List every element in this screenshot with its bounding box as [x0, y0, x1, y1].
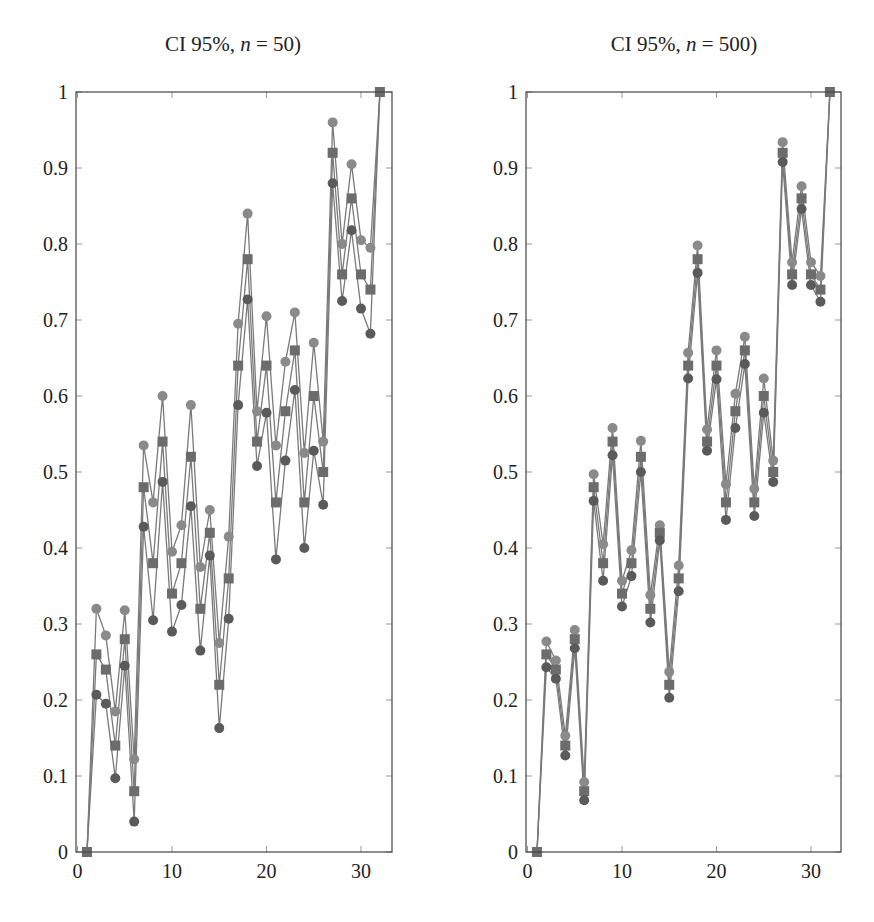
y-tick-label: 1: [508, 81, 518, 103]
lower-ci-marker: [617, 602, 627, 612]
y-tick-label: 0.6: [493, 385, 518, 407]
upper-ci-marker: [560, 731, 570, 741]
upper-ci-marker: [579, 777, 589, 787]
mean-marker: [589, 482, 599, 492]
lower-ci-marker: [589, 496, 599, 506]
mean-marker: [749, 497, 759, 507]
upper-ci-marker: [617, 576, 627, 586]
lower-ci-marker: [702, 446, 712, 456]
mean-marker: [541, 649, 551, 659]
upper-ci-marker: [702, 424, 712, 434]
mean-marker: [617, 589, 627, 599]
lower-ci-marker: [806, 280, 816, 290]
upper-ci-marker: [806, 257, 816, 267]
upper-ci-marker: [730, 389, 740, 399]
mean-marker: [560, 741, 570, 751]
x-tick-label: 30: [801, 860, 821, 882]
y-tick-label: 0.1: [493, 765, 518, 787]
lower-ci-marker: [541, 662, 551, 672]
lower-ci-marker: [740, 359, 750, 369]
mean-marker: [806, 269, 816, 279]
lower-ci-marker: [551, 674, 561, 684]
upper-ci-marker: [551, 655, 561, 665]
lower-ci-marker: [693, 268, 703, 278]
mean-marker: [636, 452, 646, 462]
mean-marker: [759, 391, 769, 401]
upper-ci-marker: [645, 590, 655, 600]
upper-ci-marker: [636, 436, 646, 446]
y-tick-label: 0.7: [493, 309, 518, 331]
lower-ci-marker: [721, 515, 731, 525]
plot-area-right: 00.10.20.30.40.50.60.70.80.910102030: [0, 0, 874, 922]
y-tick-label: 0.8: [493, 233, 518, 255]
mean-marker: [598, 558, 608, 568]
lower-ci-marker: [797, 204, 807, 214]
mean-marker: [730, 406, 740, 416]
mean-marker: [712, 361, 722, 371]
lower-ci-marker: [778, 157, 788, 167]
y-tick-label: 0.3: [493, 613, 518, 635]
mean-marker: [645, 604, 655, 614]
upper-ci-marker: [797, 181, 807, 191]
upper-ci-marker: [721, 479, 731, 489]
x-tick-label: 0: [523, 860, 533, 882]
mean-marker: [740, 345, 750, 355]
upper-ci-marker: [683, 348, 693, 358]
x-tick-label: 20: [707, 860, 727, 882]
mean-marker: [778, 148, 788, 158]
lower-ci-marker: [570, 643, 580, 653]
x-tick-label: 10: [612, 860, 632, 882]
lower-ci-marker: [759, 408, 769, 418]
mean-marker: [626, 558, 636, 568]
lower-ci-marker: [626, 571, 636, 581]
upper-ci-marker: [541, 636, 551, 646]
mean-marker: [721, 497, 731, 507]
upper-ci-marker: [589, 469, 599, 479]
upper-ci-marker: [626, 545, 636, 555]
lower-ci-marker: [608, 450, 618, 460]
mean-marker: [608, 437, 618, 447]
lower-ci-marker: [815, 297, 825, 307]
lower-ci-marker: [787, 280, 797, 290]
y-tick-label: 0.9: [493, 157, 518, 179]
lower-ci-marker: [579, 795, 589, 805]
upper-ci-marker: [608, 423, 618, 433]
lower-ci-marker: [768, 477, 778, 487]
upper-ci-marker: [693, 241, 703, 251]
lower-ci-marker: [749, 511, 759, 521]
lower-ci-marker: [655, 535, 665, 545]
lower-ci-marker: [683, 374, 693, 384]
upper-ci-marker: [664, 667, 674, 677]
mean-marker: [664, 680, 674, 690]
upper-ci-marker: [570, 625, 580, 635]
lower-ci-marker: [712, 374, 722, 384]
lower-ci-marker: [636, 467, 646, 477]
mean-marker: [815, 285, 825, 295]
mean-marker: [683, 361, 693, 371]
mean-marker: [787, 269, 797, 279]
mean-marker: [702, 437, 712, 447]
mean-marker: [693, 254, 703, 264]
y-tick-label: 0: [508, 841, 518, 863]
lower-ci-marker: [645, 617, 655, 627]
mean-marker: [579, 786, 589, 796]
y-tick-label: 0.4: [493, 537, 518, 559]
lower-ci-marker: [664, 693, 674, 703]
upper-ci-marker: [598, 539, 608, 549]
mean-marker: [674, 573, 684, 583]
upper-ci-marker: [815, 271, 825, 281]
series-line-lower-ci: [537, 92, 830, 852]
mean-marker: [797, 193, 807, 203]
lower-ci-marker: [598, 576, 608, 586]
lower-ci-marker: [560, 750, 570, 760]
upper-ci-marker: [778, 137, 788, 147]
upper-ci-marker: [787, 257, 797, 267]
y-tick-label: 0.5: [493, 461, 518, 483]
lower-ci-marker: [730, 423, 740, 433]
mean-marker: [570, 634, 580, 644]
upper-ci-marker: [759, 374, 769, 384]
mean-marker: [768, 467, 778, 477]
mean-marker: [551, 665, 561, 675]
upper-ci-marker: [712, 345, 722, 355]
y-tick-label: 0.2: [493, 689, 518, 711]
